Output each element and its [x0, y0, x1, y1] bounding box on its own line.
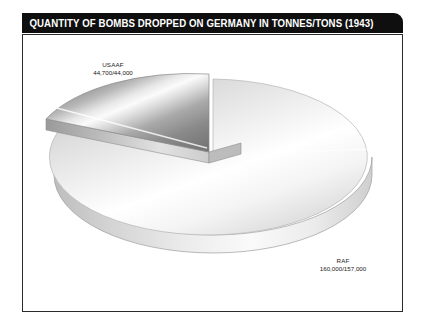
- pie-label-usaaf-name: USAAF: [75, 61, 151, 69]
- pie-label-raf-value: 160,000/157,000: [291, 265, 395, 273]
- chart-title-bar: QUANTITY OF BOMBS DROPPED ON GERMANY IN …: [22, 13, 403, 33]
- pie-chart: USAAF 44,700/44,000 RAF 160,000/157,000: [23, 35, 404, 313]
- pie-label-raf-name: RAF: [291, 257, 395, 265]
- pie-label-raf: RAF 160,000/157,000: [291, 257, 395, 273]
- page-title: QUANTITY OF BOMBS DROPPED ON GERMANY IN …: [22, 18, 373, 29]
- chart-figure: QUANTITY OF BOMBS DROPPED ON GERMANY IN …: [0, 0, 425, 328]
- pie-label-usaaf-value: 44,700/44,000: [75, 69, 151, 77]
- pie-label-usaaf: USAAF 44,700/44,000: [75, 61, 151, 77]
- chart-frame: USAAF 44,700/44,000 RAF 160,000/157,000: [22, 34, 403, 312]
